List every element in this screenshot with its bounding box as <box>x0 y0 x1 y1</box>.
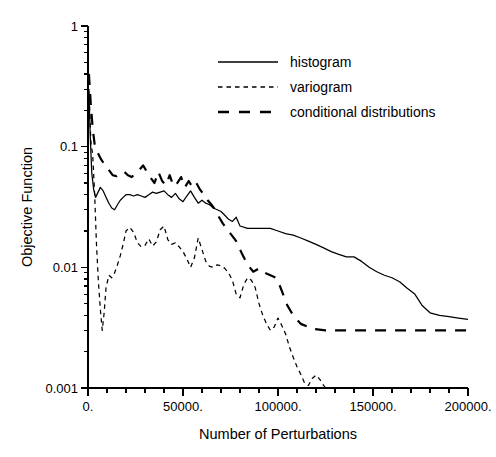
y-axis-title: Objective Function <box>19 147 35 267</box>
x-tick-label: 100000. <box>255 399 302 414</box>
series-path-variogram <box>89 89 326 388</box>
x-tick-label: 50000. <box>163 399 203 414</box>
tick-labels: 10.10.010.0010.50000.100000.150000.20000… <box>45 19 491 415</box>
x-tick-label: 150000. <box>350 399 397 414</box>
y-tick-label: 1 <box>71 19 78 34</box>
x-axis-title: Number of Perturbations <box>199 426 357 442</box>
x-tick-label: 200000. <box>445 399 492 414</box>
y-tick-label: 0.01 <box>53 260 78 275</box>
legend-label-histogram: histogram <box>290 54 351 70</box>
y-tick-label: 0.001 <box>45 381 78 396</box>
legend-label-conditional-distributions: conditional distributions <box>290 104 436 120</box>
chart-legend: histogramvariogramconditional distributi… <box>218 54 436 120</box>
x-tick-label: 0. <box>83 399 94 414</box>
legend-label-variogram: variogram <box>290 79 352 95</box>
series-path-histogram <box>89 93 468 320</box>
axis-titles: Number of PerturbationsObjective Functio… <box>19 147 357 442</box>
data-series <box>89 74 468 388</box>
axes <box>81 26 468 396</box>
chart-figure: 10.10.010.0010.50000.100000.150000.20000… <box>0 0 496 457</box>
y-tick-label: 0.1 <box>60 139 78 154</box>
chart-canvas: 10.10.010.0010.50000.100000.150000.20000… <box>0 0 496 457</box>
